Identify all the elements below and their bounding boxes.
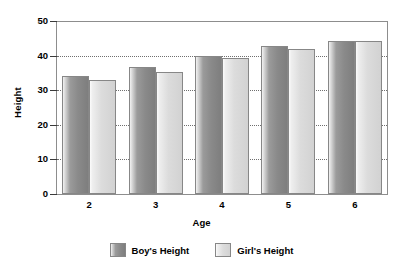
y-tick-label: 40	[18, 51, 48, 61]
legend-swatch-icon	[215, 243, 231, 257]
y-tick-label: 10	[18, 154, 48, 164]
bar-group	[62, 21, 116, 194]
bar-boy-s-height-3	[129, 67, 156, 194]
y-tick-label: 0	[18, 189, 48, 199]
bar-girl-s-height-4	[222, 58, 249, 194]
y-tick-label: 20	[18, 120, 48, 130]
bar-group	[195, 21, 249, 194]
legend-item: Boy's Height	[110, 243, 190, 257]
legend-swatch-icon	[110, 243, 126, 257]
y-tick-label: 50	[18, 16, 48, 26]
bar-boy-s-height-6	[328, 41, 355, 194]
y-tick	[50, 194, 57, 195]
x-tick-label: 4	[202, 199, 242, 210]
bar-group	[328, 21, 382, 194]
bar-girl-s-height-3	[156, 72, 183, 194]
x-tick-label: 3	[136, 199, 176, 210]
y-tick-label: 30	[18, 85, 48, 95]
bar-girl-s-height-5	[288, 49, 315, 194]
bar-group	[129, 21, 183, 194]
bars-layer	[56, 21, 388, 194]
bar-girl-s-height-2	[89, 80, 116, 194]
legend-item: Girl's Height	[215, 243, 293, 257]
x-tick-label: 2	[69, 199, 109, 210]
bar-group	[261, 21, 315, 194]
bar-chart: Height 01020304050 23456 Age Boy's Heigh…	[0, 0, 403, 275]
bar-boy-s-height-5	[261, 46, 288, 194]
legend-label: Boy's Height	[132, 245, 190, 256]
legend-label: Girl's Height	[237, 245, 293, 256]
x-tick-label: 6	[335, 199, 375, 210]
x-tick-label: 5	[268, 199, 308, 210]
bar-boy-s-height-2	[62, 76, 89, 194]
bar-girl-s-height-6	[355, 41, 382, 194]
chart-legend: Boy's HeightGirl's Height	[0, 243, 403, 257]
bar-boy-s-height-4	[195, 56, 222, 194]
x-axis-title: Age	[0, 217, 403, 228]
